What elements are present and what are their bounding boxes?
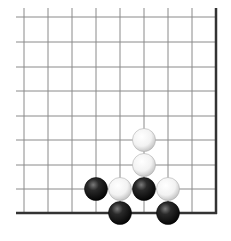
white-stone: [133, 129, 156, 152]
white-stone: [133, 154, 156, 177]
white-stone: [157, 178, 180, 201]
black-stone: [85, 178, 108, 201]
go-board: [0, 0, 231, 241]
stones-layer: [85, 129, 180, 225]
black-stone: [133, 178, 156, 201]
white-stone: [109, 178, 132, 201]
black-stone: [109, 202, 132, 225]
black-stone: [157, 202, 180, 225]
